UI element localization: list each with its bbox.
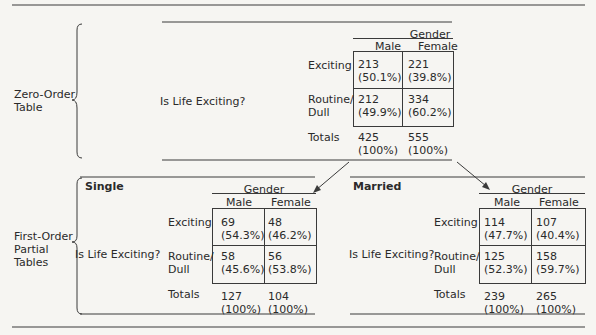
row-label-totals: Totals bbox=[308, 131, 339, 144]
row-label-totals: Totals bbox=[434, 288, 465, 301]
zero-order-label-line1: Zero-Order bbox=[14, 88, 75, 101]
row-label-exciting: Exciting bbox=[168, 216, 212, 229]
row-label-routine: Routine/ bbox=[434, 250, 480, 263]
gender-rule bbox=[353, 38, 453, 39]
total-count: 555 bbox=[408, 131, 429, 144]
total-pct: (100%) bbox=[221, 303, 261, 316]
cell-pct: (60.2%) bbox=[408, 106, 452, 119]
cell-count: 114 bbox=[484, 216, 505, 229]
first-order-label-line1: First-Order bbox=[14, 230, 73, 243]
row-label-dull: Dull bbox=[168, 263, 190, 276]
total-count: 239 bbox=[484, 290, 505, 303]
cell-pct: (54.3%) bbox=[221, 229, 265, 242]
total-count: 265 bbox=[536, 290, 557, 303]
cell-count: 56 bbox=[268, 250, 282, 263]
cell-pct: (47.7%) bbox=[484, 229, 528, 242]
total-pct: (100%) bbox=[536, 303, 576, 316]
row-label-exciting: Exciting bbox=[434, 216, 478, 229]
cell-count: 48 bbox=[268, 216, 282, 229]
column-variable-label: Gender bbox=[212, 183, 316, 196]
decorations bbox=[0, 0, 596, 335]
row-label-totals: Totals bbox=[168, 288, 199, 301]
cell-count: 125 bbox=[484, 250, 505, 263]
row-variable-label: Is Life Exciting? bbox=[349, 248, 434, 261]
total-pct: (100%) bbox=[358, 144, 398, 157]
grid-horizontal-divider bbox=[212, 245, 316, 246]
cell-count: 69 bbox=[221, 216, 235, 229]
total-count: 104 bbox=[268, 290, 289, 303]
grid-horizontal-divider bbox=[479, 245, 585, 246]
row-variable-label: Is Life Exciting? bbox=[75, 248, 160, 261]
cell-pct: (53.8%) bbox=[268, 263, 312, 276]
cell-pct: (50.1%) bbox=[358, 71, 402, 84]
cell-count: 58 bbox=[221, 250, 235, 263]
row-label-exciting: Exciting bbox=[308, 59, 352, 72]
cell-count: 158 bbox=[536, 250, 557, 263]
cell-count: 213 bbox=[358, 58, 379, 71]
brace-first-order bbox=[72, 178, 82, 314]
cell-count: 221 bbox=[408, 58, 429, 71]
cell-count: 334 bbox=[408, 93, 429, 106]
row-label-dull: Dull bbox=[308, 106, 330, 119]
first-order-label-line2: Partial bbox=[14, 243, 49, 256]
cell-pct: (49.9%) bbox=[358, 106, 402, 119]
total-pct: (100%) bbox=[268, 303, 308, 316]
total-pct: (100%) bbox=[408, 144, 448, 157]
total-count: 425 bbox=[358, 131, 379, 144]
cell-pct: (39.8%) bbox=[408, 71, 452, 84]
table-title-single: Single bbox=[85, 180, 124, 193]
row-label-dull: Dull bbox=[434, 263, 456, 276]
column-variable-label: Gender bbox=[479, 183, 585, 196]
total-pct: (100%) bbox=[484, 303, 524, 316]
total-count: 127 bbox=[221, 290, 242, 303]
gender-rule bbox=[212, 193, 316, 194]
cell-pct: (59.7%) bbox=[536, 263, 580, 276]
row-label-routine: Routine/ bbox=[168, 250, 214, 263]
first-order-label-line3: Tables bbox=[14, 256, 48, 269]
cell-count: 107 bbox=[536, 216, 557, 229]
zero-order-label-line2: Table bbox=[14, 101, 42, 114]
cell-count: 212 bbox=[358, 93, 379, 106]
cell-pct: (40.4%) bbox=[536, 229, 580, 242]
grid-horizontal-divider bbox=[353, 88, 453, 89]
cell-pct: (46.2%) bbox=[268, 229, 312, 242]
gender-rule bbox=[479, 193, 585, 194]
cell-pct: (45.6%) bbox=[221, 263, 265, 276]
cell-pct: (52.3%) bbox=[484, 263, 528, 276]
row-label-routine: Routine/ bbox=[308, 93, 354, 106]
row-variable-label: Is Life Exciting? bbox=[160, 95, 245, 108]
table-title-married: Married bbox=[353, 180, 401, 193]
